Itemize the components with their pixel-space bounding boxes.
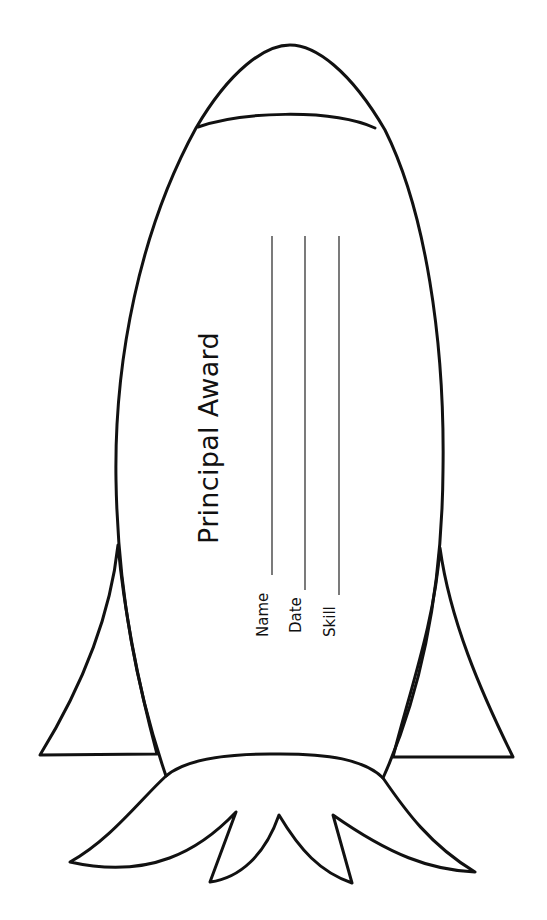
rocket-outline <box>0 0 547 920</box>
rocket-body <box>116 45 443 778</box>
date-label: Date <box>287 597 305 633</box>
nose-band <box>198 114 375 128</box>
name-label: Name <box>254 593 272 637</box>
skill-label: Skill <box>321 606 339 637</box>
right-fin <box>393 548 513 757</box>
left-fin <box>40 545 157 755</box>
award-title: Principal Award <box>193 332 224 544</box>
exhaust-flames <box>70 754 475 883</box>
